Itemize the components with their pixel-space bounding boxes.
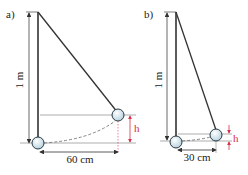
ball-displaced (210, 129, 222, 141)
length-label: 1 m (152, 71, 164, 88)
length-label: 1 m (13, 71, 25, 88)
ball-rest (170, 136, 182, 148)
panel-a: a) 1 m 60 cm h (6, 8, 140, 165)
horizontal-label: 30 cm (183, 151, 211, 163)
ball-rest (32, 137, 44, 149)
swing-arc (44, 121, 115, 143)
panel-b-label: b) (144, 8, 154, 21)
height-label: h (233, 132, 239, 144)
pendulum-diagram: a) 1 m 60 cm h b) 1 m (0, 0, 248, 175)
displaced-string (38, 12, 118, 113)
panel-a-label: a) (6, 8, 15, 21)
horizontal-label: 60 cm (66, 153, 94, 165)
swing-arc (182, 137, 211, 141)
panel-b: b) 1 m 30 cm h (144, 8, 239, 163)
height-label: h (134, 122, 140, 134)
ball-displaced (112, 109, 124, 121)
displaced-string (176, 12, 216, 130)
